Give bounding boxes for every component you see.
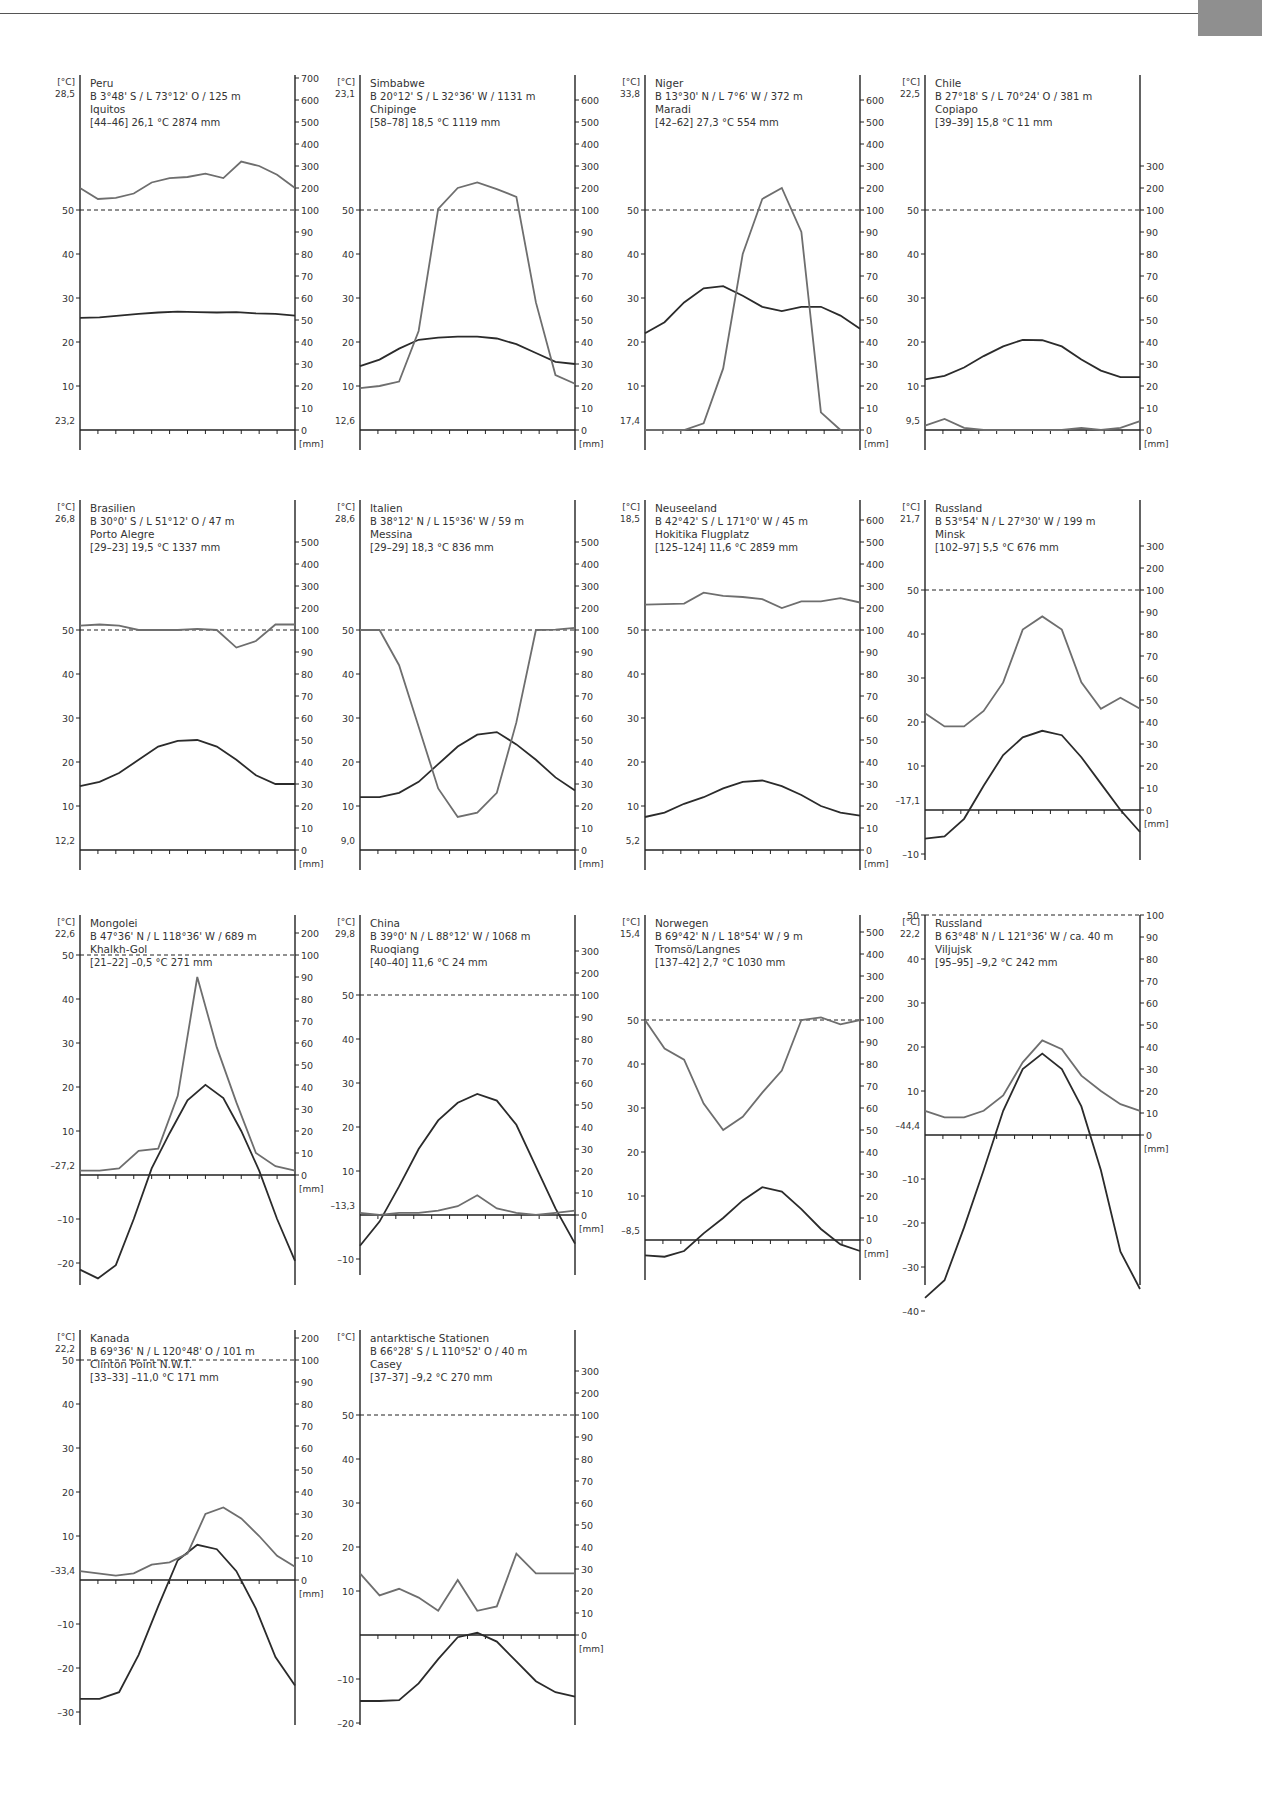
precip-tick-label: 200 xyxy=(301,603,319,614)
precip-tick-label: 600 xyxy=(581,95,599,106)
precip-tick-label: 10 xyxy=(581,1188,593,1199)
climate-chart-svg: 1020304050010203040506070809010020030040… xyxy=(625,915,925,1335)
temp-tick-label: –10 xyxy=(57,1619,74,1630)
precip-tick-label: 600 xyxy=(866,515,884,526)
summary-label: [29–23] 19,5 °C 1337 mm xyxy=(90,542,220,553)
station-label: Khalkh-Gol xyxy=(90,943,147,955)
precip-tick-label: 10 xyxy=(301,1553,313,1564)
precip-tick-label: 300 xyxy=(581,946,599,957)
temp-tick-label: 20 xyxy=(627,337,639,348)
temp-tick-label: –10 xyxy=(902,1174,919,1185)
temp-tick-label: 20 xyxy=(342,1542,354,1553)
precipitation-line xyxy=(80,625,295,648)
precip-tick-label: 40 xyxy=(581,337,593,348)
country-label: Brasilien xyxy=(90,502,135,514)
min-temp-label: 9,0 xyxy=(341,836,356,846)
temp-tick-label: 10 xyxy=(342,1166,354,1177)
temp-tick-label: 20 xyxy=(627,757,639,768)
precip-tick-label: 400 xyxy=(581,559,599,570)
precip-tick-label: 20 xyxy=(301,1126,313,1137)
temp-tick-label: 50 xyxy=(907,205,919,216)
precip-tick-label: 400 xyxy=(866,139,884,150)
precip-tick-label: 200 xyxy=(866,183,884,194)
temp-tick-label: 20 xyxy=(62,1487,74,1498)
temp-tick-label: –20 xyxy=(57,1663,74,1674)
temp-tick-label: –40 xyxy=(902,1306,919,1317)
station-label: Tromsö/Langnes xyxy=(654,943,740,955)
country-label: Russland xyxy=(935,917,982,929)
precip-unit-label: [mm] xyxy=(579,1224,604,1234)
precip-tick-label: 60 xyxy=(1146,998,1158,1009)
precip-tick-label: 40 xyxy=(301,757,313,768)
precipitation-line xyxy=(360,628,575,817)
temp-tick-label: 10 xyxy=(907,381,919,392)
temp-unit-label: [°C] xyxy=(622,77,640,87)
precipitation-line xyxy=(925,1040,1140,1117)
precip-tick-label: 90 xyxy=(301,647,313,658)
temp-tick-label: 20 xyxy=(627,1147,639,1158)
precip-tick-label: 60 xyxy=(301,1038,313,1049)
precip-tick-label: 60 xyxy=(1146,673,1158,684)
precip-tick-label: 400 xyxy=(866,559,884,570)
climate-chart-svg: 1020304050010203040506070809010020030040… xyxy=(60,75,360,495)
precip-tick-label: 60 xyxy=(581,1078,593,1089)
min-temp-label: –17,1 xyxy=(895,796,920,806)
precip-tick-label: 50 xyxy=(301,735,313,746)
precip-unit-label: [mm] xyxy=(1144,819,1169,829)
precip-tick-label: 30 xyxy=(1146,359,1158,370)
climate-chart-svg: –101020304050010203040506070809010020030… xyxy=(340,915,640,1335)
precip-tick-label: 50 xyxy=(581,735,593,746)
precip-tick-label: 20 xyxy=(581,381,593,392)
precip-tick-label: 10 xyxy=(1146,1108,1158,1119)
precip-tick-label: 80 xyxy=(581,669,593,680)
temp-unit-label: [°C] xyxy=(902,917,920,927)
precip-tick-label: 300 xyxy=(866,581,884,592)
station-label: Clinton Point N.W.T. xyxy=(90,1358,192,1370)
temp-unit-label: [°C] xyxy=(622,502,640,512)
precip-tick-label: 40 xyxy=(581,757,593,768)
country-label: Neuseeland xyxy=(655,502,717,514)
min-temp-label: –44,4 xyxy=(895,1121,920,1131)
page-corner-tab xyxy=(1198,0,1262,36)
temperature-line xyxy=(925,731,1140,839)
climate-chart-chipinge: 1020304050010203040506070809010020030040… xyxy=(340,75,640,499)
temp-unit-label: [°C] xyxy=(337,77,355,87)
climate-chart-khalkh-gol: –20–101020304050010203040506070809010020… xyxy=(60,915,360,1339)
temp-tick-label: 50 xyxy=(627,625,639,636)
temp-tick-label: 10 xyxy=(907,1086,919,1097)
precipitation-line xyxy=(925,419,1140,430)
precip-tick-label: 0 xyxy=(1146,1130,1152,1141)
precip-tick-label: 40 xyxy=(866,1147,878,1158)
temp-tick-label: 50 xyxy=(62,1355,74,1366)
precip-tick-label: 20 xyxy=(866,381,878,392)
precip-tick-label: 0 xyxy=(301,425,307,436)
precip-unit-label: [mm] xyxy=(864,859,889,869)
page-top-rule xyxy=(0,13,1200,14)
precip-tick-label: 0 xyxy=(866,1235,872,1246)
precip-unit-label: [mm] xyxy=(579,859,604,869)
precip-tick-label: 100 xyxy=(581,625,599,636)
country-label: Simbabwe xyxy=(370,77,425,89)
summary-label: [29–29] 18,3 °C 836 mm xyxy=(370,542,494,553)
precip-tick-label: 100 xyxy=(1146,585,1164,596)
precip-tick-label: 70 xyxy=(301,1421,313,1432)
precip-tick-label: 100 xyxy=(581,990,599,1001)
coords-label: B 39°0' N / L 88°12' W / 1068 m xyxy=(370,931,530,942)
summary-label: [42–62] 27,3 °C 554 mm xyxy=(655,117,779,128)
precip-tick-label: 80 xyxy=(301,669,313,680)
precip-tick-label: 40 xyxy=(581,1122,593,1133)
max-temp-label: 23,1 xyxy=(335,89,355,99)
climate-chart-maradi: 1020304050010203040506070809010020030040… xyxy=(625,75,925,499)
climate-chart-svg: 1020304050010203040506070809010020030040… xyxy=(340,500,640,920)
temp-tick-label: –20 xyxy=(57,1258,74,1269)
country-label: Kanada xyxy=(90,1332,129,1344)
climate-chart-svg: –30–20–101020304050010203040506070809010… xyxy=(60,1330,360,1750)
precip-tick-label: 10 xyxy=(581,1608,593,1619)
precip-tick-label: 300 xyxy=(581,1366,599,1377)
temp-tick-label: –10 xyxy=(57,1214,74,1225)
country-label: Norwegen xyxy=(655,917,708,929)
precip-tick-label: 40 xyxy=(866,337,878,348)
climate-chart-porto-alegre: 1020304050010203040506070809010020030040… xyxy=(60,500,360,924)
temp-tick-label: 10 xyxy=(627,1191,639,1202)
coords-label: B 13°30' N / L 7°6' W / 372 m xyxy=(655,91,803,102)
